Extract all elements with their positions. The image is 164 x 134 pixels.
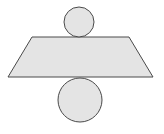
- trapezoid-lateral-face: [8, 37, 153, 77]
- bottom-circle-large-base: [58, 78, 102, 122]
- frustum-net-diagram: [0, 0, 164, 134]
- top-circle-small-base: [64, 7, 94, 37]
